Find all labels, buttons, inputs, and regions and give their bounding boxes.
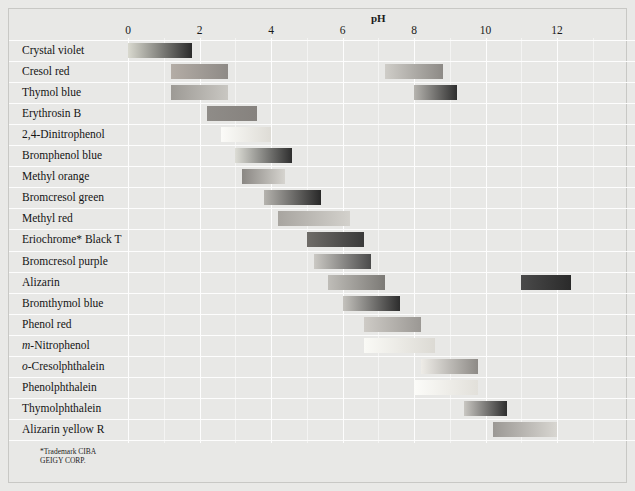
indicator-label-bromcresol-green: Bromcresol green bbox=[22, 191, 104, 204]
bar-cresol-red-band-1 bbox=[385, 64, 442, 79]
x-tick-label-6: 6 bbox=[323, 24, 363, 36]
indicator-label-methyl-orange: Methyl orange bbox=[22, 170, 89, 183]
indicator-label-bromphenol-blue: Bromphenol blue bbox=[22, 149, 102, 162]
indicator-label-phenol-red: Phenol red bbox=[22, 318, 72, 331]
gridline-h-15 bbox=[9, 356, 635, 357]
bar-alizarin-yellow-r-band-0 bbox=[493, 422, 557, 437]
bar-phenol-red-band-0 bbox=[364, 317, 421, 332]
gridline-h-19 bbox=[9, 440, 635, 441]
bar-methyl-orange-band-0 bbox=[242, 169, 285, 184]
indicator-label-eriochrome-black-t: Eriochrome* Black T bbox=[22, 233, 121, 246]
gridline-h-18 bbox=[9, 419, 635, 420]
gridline-v-10 bbox=[486, 38, 487, 443]
x-tick-label-4: 4 bbox=[251, 24, 291, 36]
bar-thymol-blue-band-1 bbox=[414, 85, 457, 100]
indicator-label-methyl-red: Methyl red bbox=[22, 212, 73, 225]
gridline-h-13 bbox=[9, 314, 635, 315]
bar-bromcresol-purple-band-0 bbox=[314, 254, 371, 269]
gridline-h-0 bbox=[9, 40, 635, 41]
gridline-h-3 bbox=[9, 103, 635, 104]
bar-erythrosin-b-band-0 bbox=[207, 106, 257, 121]
bar-bromphenol-blue-band-0 bbox=[235, 148, 292, 163]
gridline-h-17 bbox=[9, 398, 635, 399]
footnote-trademark: *Trademark CIBA GEIGY CORP. bbox=[40, 447, 96, 466]
gridline-h-2 bbox=[9, 82, 635, 83]
bar-methyl-red-band-0 bbox=[278, 211, 350, 226]
gridline-h-14 bbox=[9, 335, 635, 336]
bar-cresol-red-band-0 bbox=[171, 64, 228, 79]
gridline-h-6 bbox=[9, 166, 635, 167]
bar-alizarin-band-0 bbox=[328, 275, 385, 290]
indicator-label-cresol-red: Cresol red bbox=[22, 65, 70, 78]
gridline-v-13 bbox=[593, 38, 594, 443]
gridline-h-8 bbox=[9, 208, 635, 209]
indicator-label-thymol-blue: Thymol blue bbox=[22, 86, 81, 99]
gridline-h-5 bbox=[9, 145, 635, 146]
bar-eriochrome-black-t-band-0 bbox=[307, 232, 364, 247]
gridline-h-4 bbox=[9, 124, 635, 125]
gridline-h-11 bbox=[9, 272, 635, 273]
axis-title-ph: pH bbox=[338, 12, 418, 24]
gridline-v-7 bbox=[378, 38, 379, 443]
gridline-v-12 bbox=[557, 38, 558, 443]
ph-indicator-chart: pH 024681012 Crystal violetCresol redThy… bbox=[0, 0, 635, 491]
gridline-h-1 bbox=[9, 61, 635, 62]
gridline-v-0 bbox=[128, 38, 129, 443]
bar-thymolphthalein-band-0 bbox=[464, 401, 507, 416]
bar-crystal-violet-band-0 bbox=[128, 43, 192, 58]
bar-2-4-dinitrophenol-band-0 bbox=[221, 127, 271, 142]
indicator-label-alizarin-yellow-r: Alizarin yellow R bbox=[22, 423, 104, 436]
gridline-v-1 bbox=[164, 38, 165, 443]
indicator-label-phenolphthalein: Phenolphthalein bbox=[22, 381, 97, 394]
x-tick-label-10: 10 bbox=[466, 24, 506, 36]
gridline-v-3 bbox=[235, 38, 236, 443]
gridline-h-7 bbox=[9, 187, 635, 188]
gridline-h-9 bbox=[9, 229, 635, 230]
bar-o-cresolphthalein-band-0 bbox=[421, 359, 478, 374]
gridline-v-11 bbox=[521, 38, 522, 443]
indicator-label-2-4-dinitrophenol: 2,4-Dinitrophenol bbox=[22, 128, 105, 141]
indicator-label-thymolphthalein: Thymolphthalein bbox=[22, 402, 101, 415]
indicator-label-alizarin: Alizarin bbox=[22, 276, 60, 289]
bar-bromthymol-blue-band-0 bbox=[343, 296, 400, 311]
gridline-v-4 bbox=[271, 38, 272, 443]
indicator-label-bromcresol-purple: Bromcresol purple bbox=[22, 255, 108, 268]
gridline-h-10 bbox=[9, 251, 635, 252]
bar-bromcresol-green-band-0 bbox=[264, 190, 321, 205]
bar-thymol-blue-band-0 bbox=[171, 85, 228, 100]
bar-m-nitrophenol-band-0 bbox=[364, 338, 436, 353]
bar-phenolphthalein-band-0 bbox=[414, 380, 478, 395]
indicator-label-erythrosin-b: Erythrosin B bbox=[22, 107, 81, 120]
bar-alizarin-band-1 bbox=[521, 275, 571, 290]
gridline-h-16 bbox=[9, 377, 635, 378]
indicator-label-m-nitrophenol: m-Nitrophenol bbox=[22, 339, 90, 352]
x-tick-label-2: 2 bbox=[180, 24, 220, 36]
x-tick-label-8: 8 bbox=[394, 24, 434, 36]
indicator-label-bromthymol-blue: Bromthymol blue bbox=[22, 297, 103, 310]
indicator-label-crystal-violet: Crystal violet bbox=[22, 44, 84, 57]
gridline-h-12 bbox=[9, 293, 635, 294]
indicator-label-o-cresolphthalein: o-Cresolphthalein bbox=[22, 360, 104, 373]
x-tick-label-0: 0 bbox=[108, 24, 148, 36]
x-tick-label-12: 12 bbox=[537, 24, 577, 36]
